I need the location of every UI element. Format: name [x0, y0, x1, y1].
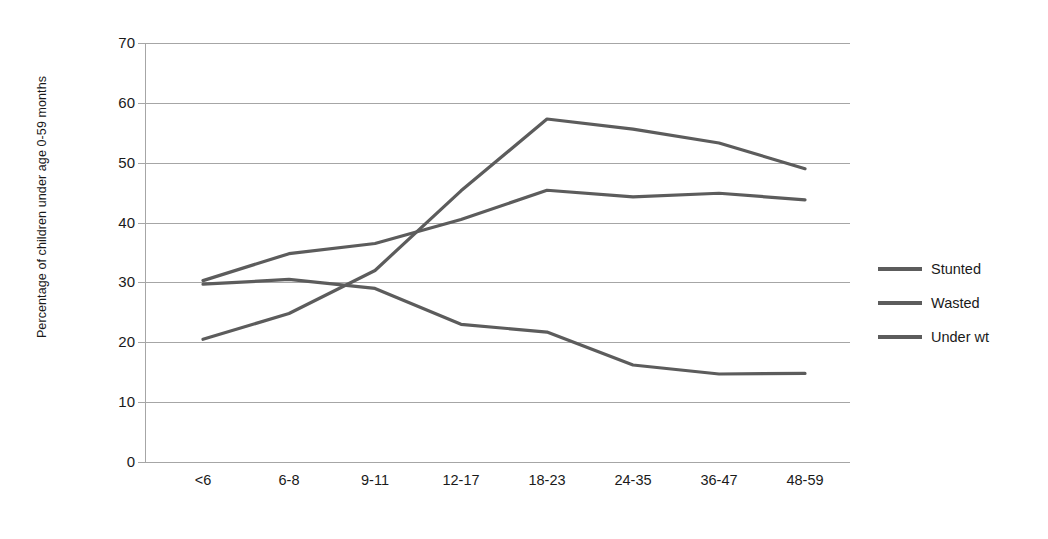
x-tick-label-7: 48-59 — [786, 472, 823, 488]
legend-label: Stunted — [931, 261, 981, 277]
x-tick-label-1: 6-8 — [279, 472, 300, 488]
x-axis-tick-labels: <66-89-1112-1718-2324-3536-4748-59 — [145, 472, 850, 498]
y-axis-title: Percentage of children under age 0-59 mo… — [35, 47, 49, 367]
legend-item-wasted[interactable]: Wasted — [878, 286, 1038, 320]
y-tick-label-10: 10 — [95, 393, 135, 410]
y-tick-mark-40 — [138, 223, 145, 224]
x-tick-label-6: 36-47 — [700, 472, 737, 488]
y-tick-label-20: 20 — [95, 333, 135, 350]
y-tick-mark-50 — [138, 163, 145, 164]
y-tick-mark-10 — [138, 402, 145, 403]
legend-item-under-wt[interactable]: Under wt — [878, 320, 1038, 354]
y-tick-label-70: 70 — [95, 34, 135, 51]
x-tick-label-3: 12-17 — [442, 472, 479, 488]
y-tick-mark-70 — [138, 43, 145, 44]
y-tick-label-50: 50 — [95, 154, 135, 171]
series-line-stunted — [203, 119, 805, 339]
x-tick-label-4: 18-23 — [528, 472, 565, 488]
legend-item-stunted[interactable]: Stunted — [878, 252, 1038, 286]
legend-label: Under wt — [931, 329, 989, 345]
y-tick-label-30: 30 — [95, 273, 135, 290]
legend-line-swatch-icon — [878, 335, 922, 339]
legend-label: Wasted — [931, 295, 980, 311]
legend-line-swatch-icon — [878, 301, 922, 305]
plot-area — [145, 43, 850, 462]
y-tick-label-0: 0 — [95, 453, 135, 470]
line-chart: Percentage of children under age 0-59 mo… — [0, 0, 1048, 539]
y-tick-mark-20 — [138, 342, 145, 343]
x-tick-label-2: 9-11 — [361, 472, 389, 488]
y-tick-mark-0 — [138, 462, 145, 463]
x-tick-label-0: <6 — [195, 472, 212, 488]
series-lines — [145, 43, 850, 462]
y-tick-mark-60 — [138, 103, 145, 104]
legend-line-swatch-icon — [878, 267, 922, 271]
gridline-0 — [145, 462, 850, 463]
legend: StuntedWastedUnder wt — [878, 252, 1038, 354]
series-line-wasted — [203, 190, 805, 280]
y-tick-label-40: 40 — [95, 214, 135, 231]
y-tick-label-60: 60 — [95, 94, 135, 111]
y-axis-tick-labels: 010203040506070 — [90, 43, 135, 462]
y-tick-mark-30 — [138, 282, 145, 283]
series-line-under-wt — [203, 279, 805, 374]
x-tick-label-5: 24-35 — [614, 472, 651, 488]
